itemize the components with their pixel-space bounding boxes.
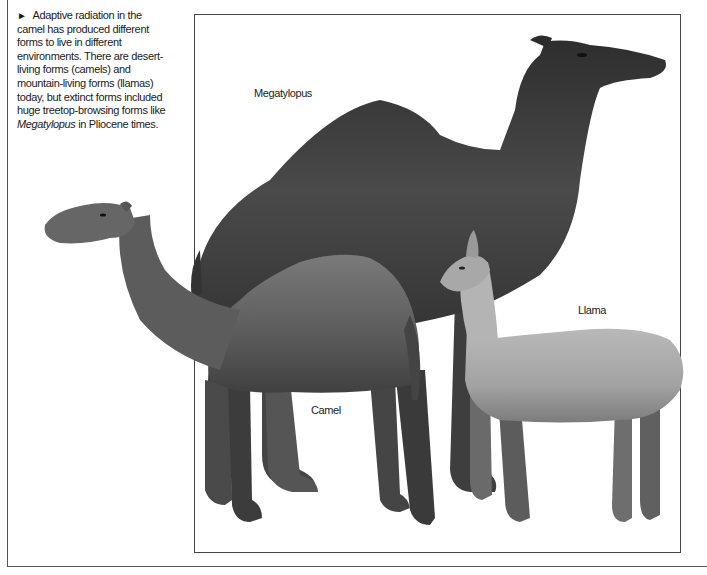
label-camel: Camel bbox=[311, 404, 341, 416]
llama-leg bbox=[640, 400, 660, 520]
label-megatylopus: Megatylopus bbox=[254, 87, 312, 99]
camel-leg bbox=[265, 380, 318, 492]
camel-leg bbox=[228, 385, 262, 522]
llama-eye bbox=[459, 267, 465, 270]
megatylopus-ear bbox=[530, 35, 552, 48]
llama-body bbox=[465, 300, 683, 423]
llama-leg bbox=[612, 405, 632, 522]
megatylopus-tail bbox=[191, 250, 202, 300]
camel-leg bbox=[205, 380, 232, 505]
label-llama: Llama bbox=[578, 304, 606, 316]
megatylopus-eye bbox=[577, 53, 587, 57]
llama-figure bbox=[440, 230, 683, 522]
camel-eye bbox=[100, 214, 106, 217]
